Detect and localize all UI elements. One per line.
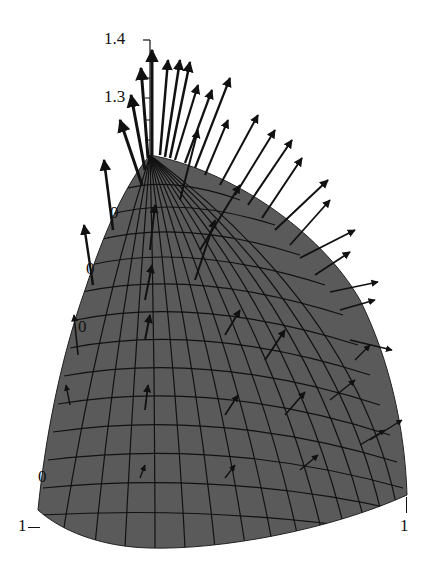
- bottom-left-tick-mark: [28, 527, 40, 528]
- tick-label-bottom-left-0: 0: [38, 468, 47, 485]
- tick-label-1.3: 1.3: [104, 88, 125, 105]
- tick-label-bottom-right-1: 1: [400, 517, 409, 534]
- tick-label-left-partial-2: 0: [78, 318, 87, 335]
- tick-label-1.4: 1.4: [104, 30, 125, 47]
- tick-label-left-partial-1: 0: [86, 260, 95, 277]
- bottom-right-tick-mark: [406, 497, 407, 513]
- surface-plot: [0, 0, 430, 567]
- tick-label-bottom-left-1: 1: [18, 517, 27, 534]
- tick-label-left-partial-0: 0: [110, 204, 119, 221]
